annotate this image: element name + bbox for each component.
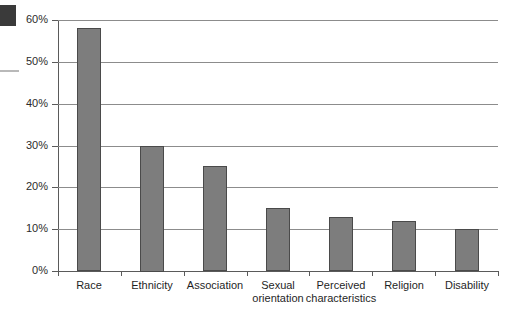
bar-race [77,28,101,271]
x-tick-boundary [435,271,436,276]
bar-chart: 0%10%20%30%40%50%60% RaceEthnicityAssoci… [0,0,518,316]
gridline-30% [58,146,498,147]
gridline-50% [58,62,498,63]
plot-area [58,20,498,271]
x-tick-boundary [247,271,248,276]
bar-association [203,166,227,271]
x-tick-boundary [184,271,185,276]
x-axis-label-disability: Disability [422,279,512,292]
x-axis-label-line: characteristics [296,292,386,305]
y-axis-tick-label: 40% [14,98,48,109]
bar-perceived-characteristics [329,217,353,271]
gridline-40% [58,104,498,105]
bar-sexual-orientation [266,208,290,271]
gridline-20% [58,187,498,188]
gridline-60% [58,20,498,21]
bar-disability [455,229,479,271]
bar-ethnicity [140,146,164,272]
bar-religion [392,221,416,271]
y-axis-tick-label: 0% [14,265,48,276]
x-axis-label-line: Disability [422,279,512,292]
x-tick-boundary [58,271,59,276]
x-axis-baseline [58,271,498,272]
x-tick-boundary [498,271,499,276]
y-axis-tick-label: 20% [14,181,48,192]
y-axis-tick-label: 10% [14,223,48,234]
x-tick-boundary [372,271,373,276]
x-tick-boundary [309,271,310,276]
y-axis-tick-label: 50% [14,56,48,67]
y-axis-tick-label: 30% [14,140,48,151]
y-axis-tick-label: 60% [14,14,48,25]
x-tick-boundary [121,271,122,276]
